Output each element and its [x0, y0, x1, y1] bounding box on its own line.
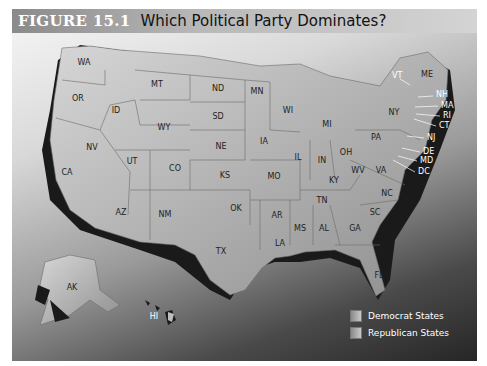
state-label-in: IN: [318, 156, 326, 165]
state-label-fl: FL: [374, 271, 383, 280]
state-label-wi: WI: [283, 106, 293, 115]
callout-nj: NJ: [427, 133, 435, 142]
legend: Democrat States Republican States: [350, 310, 449, 344]
state-label-tn: TN: [317, 196, 328, 205]
legend-label: Republican States: [368, 328, 449, 338]
state-label-oh: OH: [340, 148, 352, 157]
state-label-al: AL: [319, 224, 329, 233]
state-label-ga: GA: [349, 224, 361, 233]
callout-ri: RI: [443, 111, 451, 120]
state-label-ks: KS: [220, 171, 230, 180]
state-label-mo: MO: [267, 172, 280, 181]
figure-title: Which Political Party Dominates?: [141, 12, 387, 30]
legend-item-republican: Republican States: [350, 327, 449, 339]
state-label-az: AZ: [116, 208, 127, 217]
state-label-ar: AR: [271, 211, 282, 220]
republican-swatch: [350, 327, 362, 339]
state-label-co: CO: [169, 164, 181, 173]
democrat-swatch: [350, 310, 362, 322]
state-label-sd: SD: [212, 112, 223, 121]
state-label-la: LA: [275, 239, 285, 248]
state-label-ny: NY: [389, 108, 400, 117]
state-label-nm: NM: [159, 210, 172, 219]
state-label-wv: WV: [351, 166, 364, 175]
state-label-wy: WY: [158, 123, 171, 132]
state-label-tx: TX: [216, 247, 226, 256]
state-label-sc: SC: [370, 208, 381, 217]
callout-nh: NH: [436, 90, 448, 99]
state-label-mt: MT: [151, 80, 163, 89]
legend-item-democrat: Democrat States: [350, 310, 449, 322]
state-label-ut: UT: [127, 157, 138, 166]
state-label-wa: WA: [78, 58, 91, 67]
callout-ct: CT: [439, 121, 449, 130]
state-label-ca: CA: [61, 168, 72, 177]
state-label-me: ME: [421, 70, 433, 79]
figure-header: FIGURE 15.1 Which Political Party Domina…: [12, 9, 477, 33]
state-label-nv: NV: [86, 143, 97, 152]
callout-de: DE: [423, 147, 434, 156]
state-label-va: VA: [376, 166, 386, 175]
state-label-ne: NE: [215, 142, 226, 151]
state-label-mi: MI: [322, 120, 331, 129]
callout-md: MD: [420, 156, 433, 165]
figure-number: FIGURE 15.1: [18, 12, 131, 30]
state-label-il: IL: [295, 153, 302, 162]
state-label-pa: PA: [371, 133, 381, 142]
legend-label: Democrat States: [368, 311, 444, 321]
state-label-nd: ND: [212, 84, 224, 93]
callout-ma: MA: [441, 101, 453, 110]
state-label-ky: KY: [329, 176, 339, 185]
state-label-nc: NC: [381, 189, 393, 198]
state-label-id: ID: [112, 106, 121, 115]
state-label-ak: AK: [67, 283, 78, 292]
state-label-hi: HI: [150, 312, 158, 321]
state-label-ia: IA: [260, 137, 268, 146]
callout-vt: VT: [392, 71, 402, 80]
state-label-ms: MS: [294, 224, 306, 233]
state-label-mn: MN: [251, 87, 264, 96]
callout-dc: DC: [418, 167, 430, 176]
state-label-ok: OK: [230, 204, 242, 213]
state-label-or: OR: [72, 94, 84, 103]
